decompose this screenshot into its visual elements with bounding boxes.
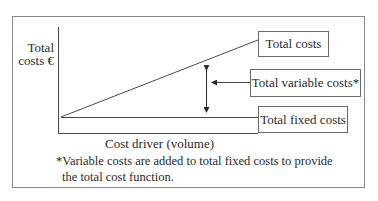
total-fixed-costs-label: Total fixed costs — [260, 112, 346, 128]
total-costs-label: Total costs — [266, 36, 322, 52]
footnote: *Variable costs are added to total fixed… — [56, 153, 333, 185]
footnote-line-1: *Variable costs are added to total fixed… — [56, 153, 333, 169]
total-variable-costs-label: Total variable costs* — [252, 75, 359, 91]
total-fixed-costs-label-box: Total fixed costs — [258, 106, 348, 133]
y-axis-label: Total costs € — [18, 41, 54, 67]
x-axis-label: Cost driver (volume) — [105, 137, 214, 150]
total-variable-costs-label-box: Total variable costs* — [250, 69, 361, 97]
footnote-line-2: the total cost function. — [56, 169, 333, 185]
total-costs-label-box: Total costs — [258, 31, 329, 57]
total-cost-line — [61, 40, 258, 117]
y-axis-label-line-2: costs € — [18, 54, 54, 67]
